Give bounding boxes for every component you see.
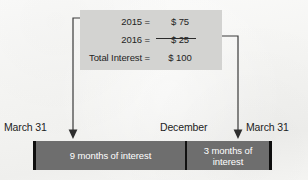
sum-underline [156,38,196,39]
calculation-row: 2015 = $ 75 [80,13,222,31]
timeline-label-middle: December [160,121,207,133]
timeline-label-end: March 31 [246,121,289,133]
calculation-row: 2016 = $ 25 [80,31,222,49]
timeline-segment-nine-months: 9 months of interest [36,141,185,170]
timeline-bar: 9 months of interest 3 months of interes… [33,141,272,170]
calculation-total-label: Total Interest = [89,49,150,67]
timeline-segment-three-months: 3 months of interest [187,141,269,170]
timeline-label-start: March 31 [4,121,47,133]
calculation-row-value: $ 75 [156,13,204,31]
calculation-box: 2015 = $ 75 2016 = $ 25 Total Interest =… [80,10,222,70]
calculation-row: Total Interest = $ 100 [80,49,222,67]
calculation-row-label: 2015 = [121,13,150,31]
calculation-total-value: $ 100 [156,49,204,67]
calculation-row-label: 2016 = [121,31,150,49]
interest-timeline-figure: 2015 = $ 75 2016 = $ 25 Total Interest =… [0,0,308,180]
right-connector-arrowhead [234,130,243,140]
calculation-row-value: $ 25 [156,31,204,49]
timeline-bar-right-cap [269,141,272,170]
left-connector-arrowhead [69,130,78,140]
